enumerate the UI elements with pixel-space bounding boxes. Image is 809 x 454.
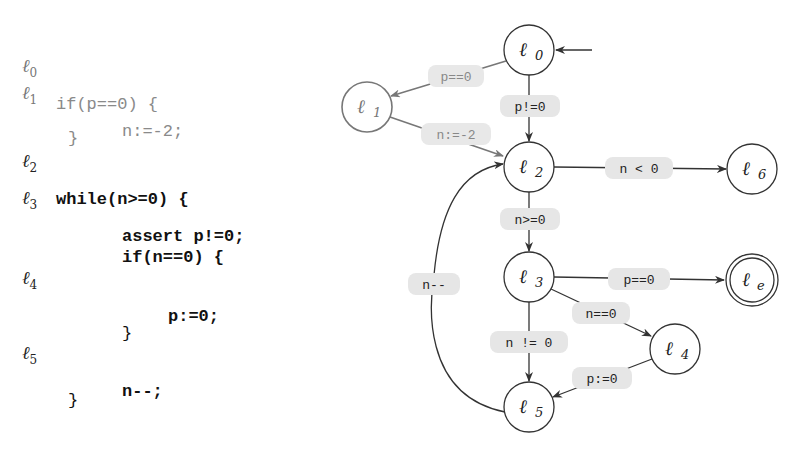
edge-label-p-assign-0: p:=0 — [572, 367, 632, 389]
edge-label-n-assign-neg2: n:=-2 — [421, 123, 491, 145]
edge-label-p-eq-0-dim: p==0 — [428, 65, 484, 87]
svg-text:p==0: p==0 — [440, 70, 471, 85]
edge-label-n-lt-0: n < 0 — [605, 157, 673, 179]
svg-text:n>=0: n>=0 — [514, 213, 545, 228]
svg-text:p!=0: p!=0 — [514, 100, 545, 115]
svg-text:n != 0: n != 0 — [506, 336, 553, 351]
svg-text:ℓ: ℓ — [519, 155, 527, 177]
svg-text:0: 0 — [535, 48, 543, 63]
svg-text:3: 3 — [535, 275, 543, 290]
node-le-accepting: ℓ e — [726, 254, 778, 306]
svg-text:n < 0: n < 0 — [619, 162, 658, 177]
svg-text:ℓ: ℓ — [519, 38, 527, 60]
svg-text:p==0: p==0 — [623, 273, 654, 288]
svg-text:6: 6 — [758, 167, 766, 182]
svg-text:ℓ: ℓ — [357, 95, 365, 117]
edge-label-p-neq-0: p!=0 — [500, 95, 560, 117]
edge-label-n-eq-0: n==0 — [572, 302, 630, 324]
svg-text:ℓ: ℓ — [665, 337, 673, 359]
node-l0: ℓ 0 — [504, 25, 554, 75]
edge-label-n-decrement: n-- — [408, 273, 460, 295]
svg-text:4: 4 — [680, 347, 689, 362]
svg-text:ℓ: ℓ — [519, 265, 527, 287]
node-l2: ℓ 2 — [504, 142, 554, 192]
svg-text:p:=0: p:=0 — [586, 372, 617, 387]
svg-text:n:=-2: n:=-2 — [436, 128, 475, 143]
edge-label-n-neq-0: n != 0 — [490, 331, 568, 353]
svg-text:n--: n-- — [422, 278, 445, 293]
svg-text:2: 2 — [534, 165, 543, 180]
edge-label-n-ge-0: n>=0 — [500, 208, 560, 230]
control-flow-graph: p==0 p!=0 n:=-2 n < 0 n>=0 p==0 n==0 n !… — [0, 0, 809, 454]
node-l6: ℓ 6 — [727, 144, 777, 194]
svg-text:5: 5 — [535, 405, 543, 420]
svg-text:ℓ: ℓ — [519, 395, 527, 417]
svg-text:n==0: n==0 — [585, 307, 616, 322]
node-l5: ℓ 5 — [504, 382, 554, 432]
node-l3: ℓ 3 — [504, 252, 554, 302]
svg-text:ℓ: ℓ — [742, 268, 750, 290]
node-l1: ℓ 1 — [342, 82, 392, 132]
node-l4: ℓ 4 — [650, 324, 700, 374]
svg-text:1: 1 — [373, 105, 381, 120]
svg-text:e: e — [757, 278, 765, 293]
edge-label-p-eq-0: p==0 — [608, 268, 670, 290]
svg-text:ℓ: ℓ — [742, 157, 750, 179]
